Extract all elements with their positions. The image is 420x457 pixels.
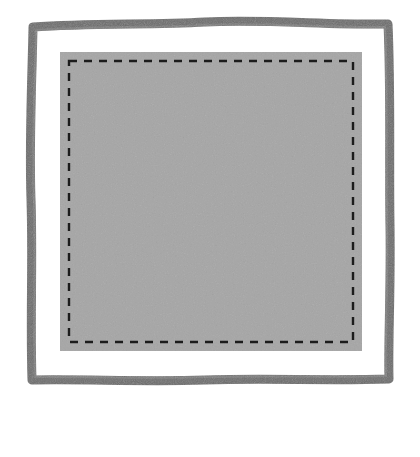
quilt-top-shade [60, 52, 362, 351]
quilt-layers-diagram [0, 0, 420, 457]
layer-quilt-top [60, 52, 362, 351]
diagram-canvas [0, 0, 420, 457]
